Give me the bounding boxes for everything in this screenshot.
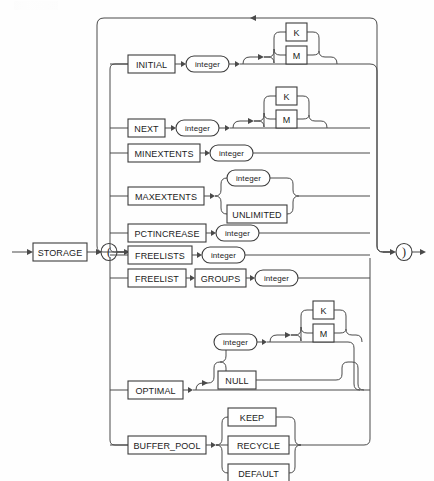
group-initial-unit: K M <box>243 23 337 64</box>
group-optimal-unit: K M <box>270 301 362 342</box>
row-minextents: MINEXTENTS integer <box>128 144 370 162</box>
node-freelist-label: FREELIST <box>135 274 179 284</box>
node-minextents[interactable]: MINEXTENTS <box>128 144 200 162</box>
row-optimal: OPTIMAL integer NULL <box>128 301 370 399</box>
node-optimal-integer[interactable]: integer <box>214 334 257 350</box>
syntax-diagram-canvas: STORAGE ( <box>0 0 434 481</box>
node-initial-k[interactable]: K <box>286 23 307 41</box>
node-buffer-pool-keep[interactable]: KEEP <box>228 408 276 426</box>
node-buffer-pool-keep-label: KEEP <box>240 413 264 423</box>
exit-path <box>412 249 426 255</box>
row-buffer-pool: BUFFER_POOL KEEP RECYCLE DEFAULT <box>128 258 370 481</box>
node-buffer-pool[interactable]: BUFFER_POOL <box>128 436 206 454</box>
node-next-m[interactable]: M <box>276 110 297 128</box>
node-freelist[interactable]: FREELIST <box>128 269 186 287</box>
node-maxextents-integer[interactable]: integer <box>227 170 270 186</box>
node-next-m-label: M <box>283 115 291 125</box>
node-freelists-label: FREELISTS <box>135 251 185 261</box>
node-freelists-integer-label: integer <box>211 251 236 260</box>
node-optimal-label: OPTIMAL <box>135 386 175 396</box>
node-optimal-null-label: NULL <box>225 376 248 386</box>
row-maxextents: MAXEXTENTS integer UNLIMITED <box>128 170 370 223</box>
row-next: NEXT integer K <box>128 87 370 137</box>
node-next[interactable]: NEXT <box>128 119 165 137</box>
node-maxextents-integer-label: integer <box>236 174 261 183</box>
node-storage[interactable]: STORAGE <box>33 243 87 261</box>
node-initial-m-label: M <box>293 51 301 61</box>
row-pctincrease: PCTINCREASE integer <box>128 224 370 242</box>
node-maxextents-label: MAXEXTENTS <box>135 192 197 202</box>
node-storage-label: STORAGE <box>38 248 83 258</box>
alternatives-collector-rail <box>370 64 390 252</box>
collector-to-close-paren <box>383 249 396 255</box>
node-optimal-integer-label: integer <box>223 338 248 347</box>
node-pctincrease-integer-label: integer <box>225 229 250 238</box>
node-freelist-groups-integer[interactable]: integer <box>255 270 298 286</box>
row-initial: INITIAL integer K <box>128 23 370 73</box>
node-next-integer[interactable]: integer <box>176 120 219 136</box>
node-optimal-k[interactable]: K <box>313 301 334 319</box>
node-minextents-label: MINEXTENTS <box>134 149 193 159</box>
node-buffer-pool-default-label: DEFAULT <box>238 469 279 479</box>
railroad-diagram: STORAGE ( <box>0 0 434 481</box>
node-initial-label: INITIAL <box>136 60 167 70</box>
node-buffer-pool-default[interactable]: DEFAULT <box>228 464 289 481</box>
node-maxextents-unlimited-label: UNLIMITED <box>232 210 282 220</box>
node-initial[interactable]: INITIAL <box>128 55 175 73</box>
node-groups[interactable]: GROUPS <box>195 269 246 287</box>
group-next-unit: K M <box>233 87 327 128</box>
node-freelists-integer[interactable]: integer <box>202 247 245 263</box>
node-next-k-label: K <box>283 92 289 102</box>
node-initial-k-label: K <box>293 28 299 38</box>
node-minextents-integer-label: integer <box>219 149 244 158</box>
node-pctincrease-label: PCTINCREASE <box>134 229 199 239</box>
node-pctincrease-integer[interactable]: integer <box>216 225 259 241</box>
node-freelist-groups-integer-label: integer <box>264 274 289 283</box>
node-buffer-pool-label: BUFFER_POOL <box>133 441 200 451</box>
node-maxextents[interactable]: MAXEXTENTS <box>128 187 204 205</box>
node-initial-integer[interactable]: integer <box>186 56 229 72</box>
node-groups-label: GROUPS <box>201 274 241 284</box>
node-close-paren-label: ) <box>402 245 406 259</box>
entry-path <box>12 249 33 255</box>
row-freelist-groups: FREELIST GROUPS integer <box>128 269 370 287</box>
node-next-k[interactable]: K <box>276 87 297 105</box>
storage-to-paren-connector <box>87 249 102 255</box>
alternatives-spine <box>110 64 130 445</box>
node-buffer-pool-recycle[interactable]: RECYCLE <box>228 436 289 454</box>
node-optimal-m-label: M <box>320 329 328 339</box>
node-optimal-m[interactable]: M <box>313 324 334 342</box>
node-optimal-k-label: K <box>320 306 326 316</box>
node-optimal[interactable]: OPTIMAL <box>128 381 183 399</box>
node-initial-integer-label: integer <box>195 60 220 69</box>
node-minextents-integer[interactable]: integer <box>210 145 253 161</box>
node-buffer-pool-recycle-label: RECYCLE <box>237 441 280 451</box>
node-initial-m[interactable]: M <box>286 46 307 64</box>
node-freelists[interactable]: FREELISTS <box>128 246 192 264</box>
node-pctincrease[interactable]: PCTINCREASE <box>128 224 206 242</box>
node-maxextents-unlimited[interactable]: UNLIMITED <box>227 205 287 223</box>
node-optimal-null[interactable]: NULL <box>218 371 256 389</box>
node-next-integer-label: integer <box>185 124 210 133</box>
row-freelists: FREELISTS integer <box>128 246 370 264</box>
node-close-paren[interactable]: ) <box>396 244 412 261</box>
node-next-label: NEXT <box>134 124 159 134</box>
